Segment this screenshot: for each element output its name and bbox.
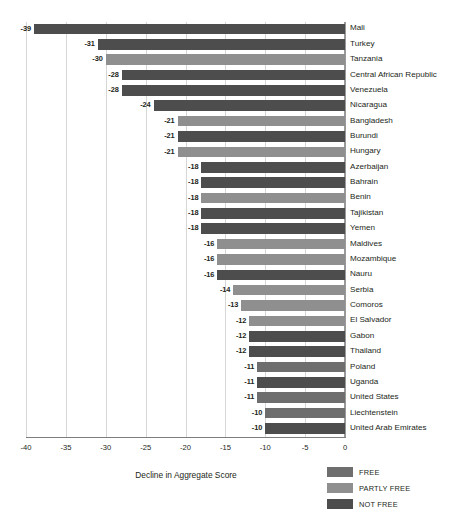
bar-row: -18Bahrain <box>0 176 459 190</box>
x-tick-label: -20 <box>180 443 191 452</box>
category-label: Maldives <box>350 238 382 250</box>
bar-value-label: -39 <box>10 23 31 35</box>
legend-item: FREE <box>327 464 457 480</box>
bar-value-label: -16 <box>193 238 214 250</box>
category-label: Bahrain <box>350 176 378 188</box>
bar <box>249 346 345 357</box>
bar-rows: -39Mali-31Turkey-30Tanzania-28Central Af… <box>0 22 459 437</box>
bar-value-label: -28 <box>98 84 119 96</box>
category-label: Bangladesh <box>350 115 393 127</box>
bar <box>201 223 345 234</box>
bar-value-label: -18 <box>177 176 198 188</box>
x-tick-label: -40 <box>21 443 32 452</box>
bar-value-label: -12 <box>225 330 246 342</box>
legend-swatch <box>327 483 353 493</box>
legend-swatch <box>327 499 353 509</box>
category-label: Venezuela <box>350 84 388 96</box>
bar-value-label: -18 <box>177 222 198 234</box>
bar <box>257 362 345 373</box>
x-tick-label: -35 <box>60 443 71 452</box>
category-label: Tajikistan <box>350 207 383 219</box>
bar-value-label: -10 <box>241 407 262 419</box>
bar <box>265 408 345 419</box>
category-label: Mozambique <box>350 253 396 265</box>
bar <box>201 208 345 219</box>
x-axis-title: Decline in Aggregate Score <box>26 470 346 480</box>
bar-value-label: -21 <box>154 146 175 158</box>
bar-row: -16Maldives <box>0 237 459 251</box>
bar-row: -12Gabon <box>0 329 459 343</box>
x-tick-label: -15 <box>220 443 231 452</box>
bar-value-label: -30 <box>82 53 103 65</box>
bar-row: -11Poland <box>0 360 459 374</box>
bar-value-label: -11 <box>233 391 254 403</box>
category-label: Gabon <box>350 330 374 342</box>
bar-row: -12Thailand <box>0 345 459 359</box>
bar-row: -21Bangladesh <box>0 114 459 128</box>
bar <box>265 423 345 434</box>
bar-row: -31Turkey <box>0 37 459 51</box>
category-label: Uganda <box>350 376 378 388</box>
category-label: Liechtenstein <box>350 407 398 419</box>
legend-item: PARTLY FREE <box>327 480 457 496</box>
category-label: Yemen <box>350 222 375 234</box>
bar-row: -11Uganda <box>0 376 459 390</box>
bar-row: -24Nicaragua <box>0 99 459 113</box>
bar <box>249 331 345 342</box>
bar <box>217 270 345 281</box>
bar <box>233 285 345 296</box>
bar-value-label: -12 <box>225 345 246 357</box>
bar <box>178 116 345 127</box>
bar-row: -28Central African Republic <box>0 68 459 82</box>
category-label: United States <box>350 391 399 403</box>
bar-row: -14Serbia <box>0 283 459 297</box>
bar-row: -10Liechtenstein <box>0 406 459 420</box>
bar-value-label: -28 <box>98 69 119 81</box>
bar-row: -28Venezuela <box>0 83 459 97</box>
legend-item: NOT FREE <box>327 496 457 512</box>
legend: FREEPARTLY FREENOT FREE <box>327 464 457 512</box>
bar <box>201 177 345 188</box>
bar <box>201 193 345 204</box>
category-label: Hungary <box>350 145 381 157</box>
bar-value-label: -10 <box>241 422 262 434</box>
bar-row: -30Tanzania <box>0 53 459 67</box>
category-label: Burundi <box>350 130 378 142</box>
bar-row: -12El Salvador <box>0 314 459 328</box>
legend-label: PARTLY FREE <box>359 484 410 493</box>
bar-value-label: -18 <box>177 192 198 204</box>
bar <box>178 147 345 158</box>
bar-value-label: -31 <box>74 38 95 50</box>
category-label: El Salvador <box>350 314 391 326</box>
bar <box>34 24 345 35</box>
x-tick-label: -25 <box>140 443 151 452</box>
bar-value-label: -11 <box>233 376 254 388</box>
category-label: Azerbaijan <box>350 161 388 173</box>
chart-container: -39Mali-31Turkey-30Tanzania-28Central Af… <box>0 0 459 522</box>
category-label: United Arab Emirates <box>350 422 426 434</box>
bar-value-label: -18 <box>177 161 198 173</box>
category-label: Nauru <box>350 268 372 280</box>
category-label: Central African Republic <box>350 69 437 81</box>
category-label: Nicaragua <box>350 99 387 111</box>
bar <box>122 85 345 96</box>
bar-value-label: -21 <box>154 115 175 127</box>
bar-row: -16Nauru <box>0 268 459 282</box>
bar-value-label: -12 <box>225 315 246 327</box>
bar-value-label: -14 <box>209 284 230 296</box>
bar <box>122 70 345 81</box>
legend-swatch <box>327 467 353 477</box>
category-label: Comoros <box>350 299 383 311</box>
bar-row: -18Tajikistan <box>0 206 459 220</box>
legend-label: NOT FREE <box>359 500 398 509</box>
category-label: Poland <box>350 361 375 373</box>
legend-label: FREE <box>359 468 380 477</box>
bar-row: -10United Arab Emirates <box>0 422 459 436</box>
bar-value-label: -11 <box>233 361 254 373</box>
bar-row: -21Burundi <box>0 130 459 144</box>
x-tick-label: -5 <box>302 443 309 452</box>
bar-value-label: -16 <box>193 253 214 265</box>
bar-row: -39Mali <box>0 22 459 36</box>
category-label: Turkey <box>350 38 374 50</box>
bar <box>178 131 345 142</box>
